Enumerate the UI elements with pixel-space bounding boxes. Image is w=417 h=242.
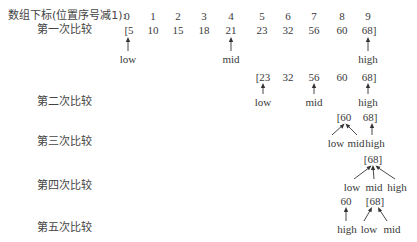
pointer-arrows <box>0 0 417 242</box>
arrow-icon <box>377 167 395 179</box>
arrow-icon <box>354 167 370 179</box>
